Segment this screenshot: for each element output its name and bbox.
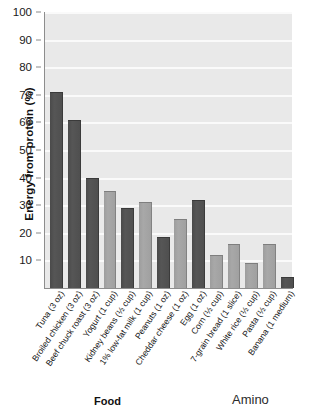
y-tick-label: 50 (19, 144, 32, 156)
y-tick-mark (36, 205, 41, 206)
y-tick-label: 100 (13, 6, 32, 18)
y-tick-mark (36, 39, 41, 40)
bar (68, 120, 81, 288)
y-tick-mark (36, 94, 41, 95)
bar (245, 263, 258, 288)
y-tick-label: 10 (19, 254, 32, 266)
y-tick-mark (36, 122, 41, 123)
y-axis-tick-labels: 102030405060708090100 (0, 0, 44, 300)
y-tick-mark (36, 67, 41, 68)
side-caption: Amino (232, 392, 269, 407)
bar (121, 208, 134, 288)
y-tick-mark (36, 260, 41, 261)
y-tick-label: 20 (19, 227, 32, 239)
bar (228, 244, 241, 288)
bar (50, 92, 63, 288)
plot-area (44, 12, 292, 288)
y-tick-label: 70 (19, 89, 32, 101)
bar (139, 202, 152, 288)
y-tick-label: 60 (19, 116, 32, 128)
bar-chart: Energy from protein (%) 1020304050607080… (0, 0, 309, 416)
bar (210, 255, 223, 288)
bar (104, 191, 117, 288)
y-tick-label: 90 (19, 34, 32, 46)
bar (157, 237, 170, 288)
x-axis-title: Food (0, 395, 215, 407)
y-tick-mark (36, 12, 41, 13)
y-tick-label: 30 (19, 199, 32, 211)
bar-series (45, 12, 292, 288)
x-axis-tick-labels: Tuna (3 oz)Broiled chicken (3 oz)Beef ch… (0, 289, 309, 389)
y-tick-mark (36, 177, 41, 178)
y-tick-mark (36, 232, 41, 233)
bar (263, 244, 276, 288)
y-tick-mark (36, 150, 41, 151)
bar (192, 200, 205, 288)
y-tick-label: 40 (19, 172, 32, 184)
bar (174, 219, 187, 288)
bar (86, 178, 99, 288)
bar (281, 277, 294, 288)
y-tick-label: 80 (19, 61, 32, 73)
